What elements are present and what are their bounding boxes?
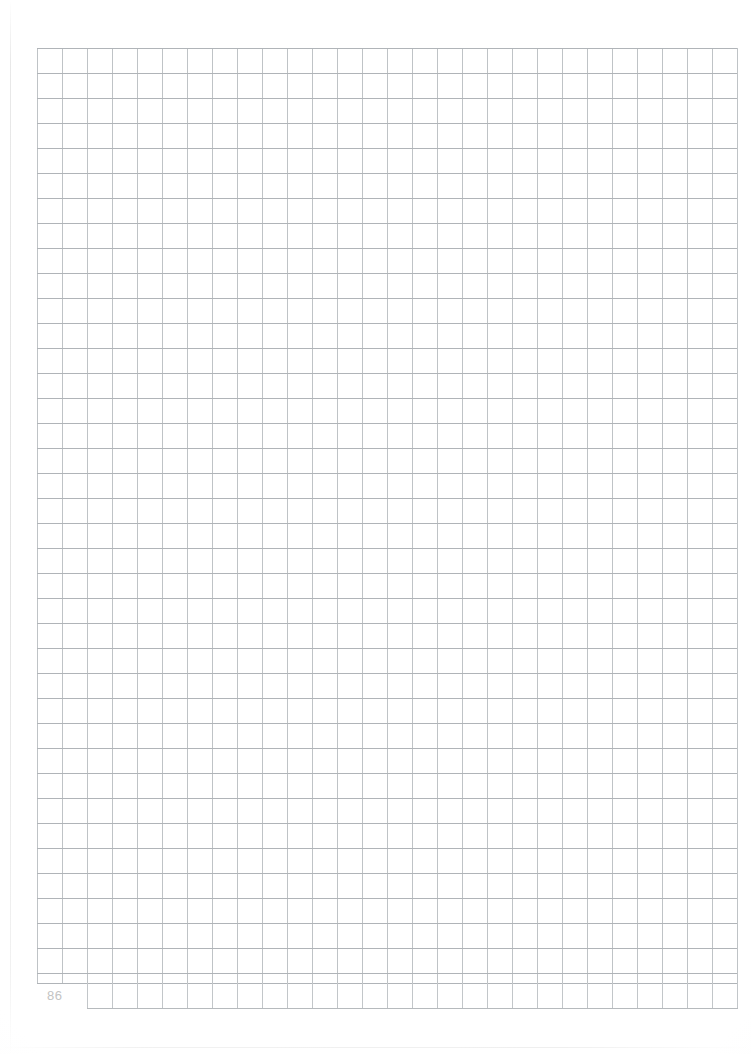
page-number: 86 bbox=[47, 987, 85, 1005]
scan-seam-left-artifact bbox=[10, 0, 11, 1054]
grid-footer-row-block bbox=[87, 983, 737, 1008]
grid-main-block bbox=[37, 48, 737, 983]
scan-seam-bottom-artifact bbox=[0, 1047, 751, 1048]
grid-main-right-rule bbox=[737, 48, 738, 984]
grid-footer-row-bottom-rule bbox=[87, 1008, 738, 1009]
graph-paper-page: 86 bbox=[0, 0, 751, 1054]
grid-footer-row-right-rule bbox=[737, 983, 738, 1009]
